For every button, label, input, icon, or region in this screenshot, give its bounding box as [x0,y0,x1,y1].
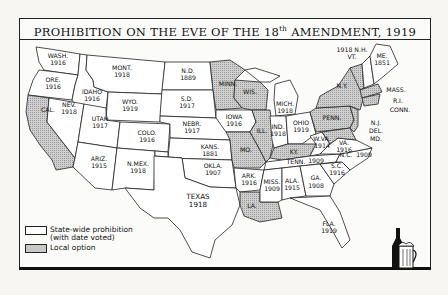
svg-text:WIS.: WIS. [243,88,257,95]
svg-text:ARK.: ARK. [242,172,257,179]
svg-text:NEV.: NEV. [62,101,76,108]
svg-text:VT.: VT. [347,53,356,60]
svg-text:1909: 1909 [356,151,372,158]
svg-text:MISS.: MISS. [264,178,281,185]
svg-text:1908: 1908 [308,182,324,189]
svg-text:1918: 1918 [130,167,146,174]
svg-text:1918: 1918 [61,108,77,115]
svg-text:IOWA: IOWA [226,113,243,120]
svg-text:1918: 1918 [114,71,130,78]
svg-text:1916: 1916 [226,120,242,127]
svg-text:1916: 1916 [241,179,257,186]
svg-text:KY.: KY. [290,148,298,155]
svg-text:1919: 1919 [321,227,337,234]
svg-text:1909: 1909 [264,185,280,192]
svg-text:UTAH: UTAH [92,115,109,122]
svg-text:CAL.: CAL. [41,106,55,113]
svg-text:ARIZ.: ARIZ. [91,155,108,162]
svg-text:MICH.: MICH. [276,100,294,107]
state-mich-up [245,68,280,82]
svg-text:1918 N.H.: 1918 N.H. [337,46,368,53]
svg-text:1909: 1909 [308,157,324,164]
svg-text:S.C.: S.C. [331,162,343,169]
svg-text:GA.: GA. [311,174,322,181]
svg-text:FLA.: FLA. [322,220,335,227]
svg-text:ME.: ME. [376,52,387,59]
svg-text:DEL.: DEL. [369,127,383,134]
svg-text:TENN.: TENN. [286,158,306,165]
svg-text:1918: 1918 [277,107,293,114]
svg-text:MASS.: MASS. [386,86,405,93]
svg-text:1916: 1916 [139,136,155,143]
svg-text:MINN.: MINN. [219,80,237,87]
legend-item-local-option: Local option [25,244,133,253]
map-title: PROHIBITION ON THE EVE OF THE 18th AMEND… [20,19,430,40]
svg-text:LA.: LA. [247,202,257,209]
svg-text:KANS.: KANS. [201,143,220,150]
svg-text:1917: 1917 [92,122,108,129]
svg-text:1851: 1851 [374,59,390,66]
map-frame: PROHIBITION ON THE EVE OF THE 18th AMEND… [19,18,431,270]
svg-text:1907: 1907 [205,169,221,176]
svg-text:N.D.: N.D. [181,67,194,74]
local-option-swatch [25,244,47,253]
svg-text:R.I.: R.I. [393,97,403,104]
svg-text:ORE.: ORE. [45,76,60,83]
svg-text:S.D.: S.D. [181,95,194,102]
svg-text:1916: 1916 [329,169,345,176]
svg-text:1919: 1919 [122,105,138,112]
svg-text:MONT.: MONT. [112,64,132,71]
label-wash: WASH. [48,52,68,59]
svg-text:1916: 1916 [50,59,66,66]
svg-text:1915: 1915 [91,162,107,169]
svg-text:1918: 1918 [270,130,286,137]
svg-text:N.J.: N.J. [371,119,381,127]
svg-text:1915: 1915 [284,184,300,191]
svg-text:OKLA.: OKLA. [204,162,223,169]
svg-text:N.MEX.: N.MEX. [127,160,149,167]
svg-text:1916: 1916 [45,83,61,90]
svg-text:1881: 1881 [202,150,218,157]
svg-text:1917: 1917 [184,127,200,134]
bottle-and-mug-icon [392,228,416,268]
svg-text:N.Y.: N.Y. [336,82,347,89]
svg-text:NEBR.: NEBR. [183,120,202,127]
svg-text:CONN.: CONN. [390,106,410,113]
svg-text:PENN.: PENN. [323,114,342,121]
svg-text:1918: 1918 [189,200,208,209]
svg-text:MO.: MO. [240,146,252,153]
svg-text:IDAHO: IDAHO [82,88,102,95]
svg-text:1889: 1889 [180,74,196,81]
svg-text:MD.: MD. [370,135,382,142]
svg-text:COLO.: COLO. [137,129,156,136]
state-wide-swatch [25,226,47,235]
svg-text:W.VA.: W.VA. [313,135,330,142]
svg-text:ALA.: ALA. [285,177,299,184]
svg-text:1916: 1916 [336,146,352,153]
svg-text:ILL.: ILL. [257,127,268,134]
state-fla [290,196,350,248]
svg-text:1914: 1914 [314,142,330,149]
svg-text:IND.: IND. [271,123,284,130]
svg-text:1919: 1919 [293,126,309,133]
svg-text:1916: 1916 [84,95,100,102]
legend-item-state-wide: State-wide prohibition (with date voted) [25,226,133,242]
svg-text:1917: 1917 [179,102,195,109]
svg-text:OHIO: OHIO [293,119,309,126]
map-legend: State-wide prohibition (with date voted)… [25,226,133,255]
svg-text:WYO.: WYO. [122,98,138,105]
svg-text:VA.: VA. [339,139,349,146]
